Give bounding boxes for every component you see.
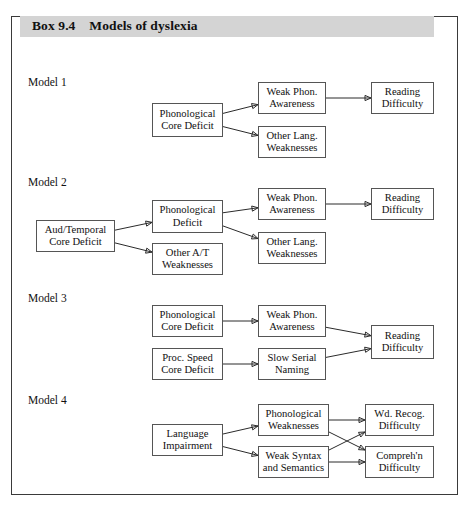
model-label-4: Model 4 (28, 394, 67, 406)
node-m4-phon-weak: Phonological Weaknesses (258, 404, 329, 436)
node-m4-compreh: Compreh'n Difficulty (365, 446, 434, 478)
model-label-3: Model 3 (28, 292, 67, 304)
box-title: Box 9.4 Models of dyslexia (32, 18, 198, 34)
node-m2-reading-diff: Reading Difficulty (371, 188, 434, 220)
node-m3-slow-serial: Slow Serial Naming (258, 348, 326, 380)
node-m3-weak-phon: Weak Phon. Awareness (258, 305, 326, 337)
node-m2-weak-phon: Weak Phon. Awareness (258, 188, 326, 220)
node-m1-weak-phon: Weak Phon. Awareness (258, 82, 326, 114)
node-m2-other-lang: Other Lang. Weaknesses (258, 232, 326, 264)
figure-page: Box 9.4 Models of dyslexia Phonological … (0, 0, 471, 507)
node-m2-phon-def: Phonological Deficit (152, 200, 223, 233)
node-m1-other-lang: Other Lang. Weaknesses (258, 126, 326, 158)
node-m2-aud-temp: Aud/Temporal Core Deficit (36, 220, 115, 252)
node-m1-phon-core: Phonological Core Deficit (152, 103, 223, 137)
node-m2-other-at: Other A/T Weaknesses (152, 243, 223, 275)
node-m4-lang-imp: Language Impairment (152, 424, 223, 456)
model-label-1: Model 1 (28, 76, 67, 88)
model-label-2: Model 2 (28, 176, 67, 188)
node-m3-reading-diff: Reading Difficulty (371, 325, 434, 359)
node-m3-proc-speed: Proc. Speed Core Deficit (152, 348, 223, 380)
box-title-band: Box 9.4 Models of dyslexia (20, 16, 434, 37)
node-m1-reading-diff: Reading Difficulty (371, 82, 434, 114)
node-m4-wd-recog: Wd. Recog. Difficulty (365, 404, 434, 436)
node-m4-weak-syntax: Weak Syntax and Semantics (258, 446, 329, 478)
node-m3-phon-core: Phonological Core Deficit (152, 305, 223, 337)
